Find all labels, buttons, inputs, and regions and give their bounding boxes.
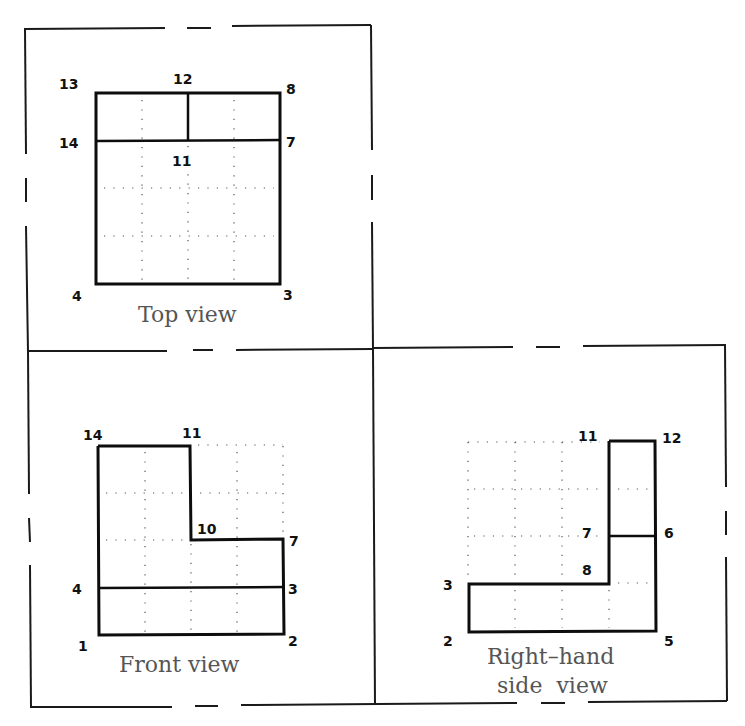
point-label-3: 3: [443, 577, 453, 593]
point-label-4: 4: [72, 288, 82, 304]
orthographic-projection-diagram: 13 12 8 14 7 11 4 3 Top view 14 11 10 7 …: [0, 0, 745, 726]
point-label-3: 3: [288, 581, 298, 597]
point-label-10: 10: [197, 521, 217, 537]
point-label-2: 2: [288, 633, 298, 649]
point-label-1: 1: [78, 638, 88, 654]
point-label-12: 12: [173, 71, 192, 87]
point-label-12: 12: [662, 430, 681, 446]
front-view: 14 11 10 7 4 3 1 2 Front view: [72, 425, 299, 677]
point-label-8: 8: [582, 562, 592, 578]
point-label-13: 13: [59, 76, 78, 92]
point-label-14: 14: [83, 427, 103, 443]
point-label-3: 3: [283, 287, 293, 303]
point-label-4: 4: [72, 581, 82, 597]
point-label-7: 7: [289, 533, 299, 549]
front-view-edge-4-3: [99, 587, 284, 588]
point-label-7: 7: [582, 525, 592, 541]
side-view: 11 12 7 6 8 3 2 5 Right–hand side view: [443, 428, 681, 698]
caption-top-view: Top view: [138, 302, 237, 327]
point-label-6: 6: [664, 525, 674, 541]
point-label-7: 7: [286, 134, 296, 150]
top-view: 13 12 8 14 7 11 4 3 Top view: [59, 71, 296, 327]
caption-front-view: Front view: [119, 652, 240, 677]
caption-side-view-line1: Right–hand: [487, 644, 614, 669]
point-label-11: 11: [182, 425, 201, 441]
caption-side-view-line2: side view: [497, 673, 608, 698]
point-label-5: 5: [664, 633, 674, 649]
point-label-8: 8: [286, 81, 296, 97]
point-label-11: 11: [578, 428, 597, 444]
point-label-11: 11: [172, 153, 191, 169]
point-label-2: 2: [443, 633, 453, 649]
point-label-14: 14: [59, 135, 79, 151]
